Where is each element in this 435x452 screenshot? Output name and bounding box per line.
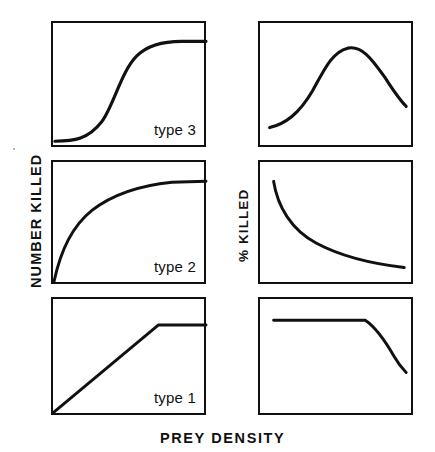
curve-percent-killed-plateau-drop: [258, 297, 413, 415]
functional-response-figure: NUMBER KILLED % KILLED PREY DENSITY type…: [0, 0, 435, 452]
panel-type-1-percent-killed: [258, 297, 413, 415]
curve-percent-killed-decay: [258, 160, 413, 284]
scan-speck: [13, 148, 15, 150]
panel-type-3-percent-killed: [258, 21, 413, 147]
panel-type-3-number-killed: type 3: [51, 21, 206, 147]
panel-label-type-3: type 3: [154, 121, 196, 138]
y-axis-label-number-killed: NUMBER KILLED: [28, 154, 44, 288]
panel-label-type-1: type 1: [154, 389, 196, 406]
x-axis-label-prey-density: PREY DENSITY: [160, 430, 285, 446]
panel-type-2-percent-killed: [258, 160, 413, 284]
y-axis-label-percent-killed: % KILLED: [236, 189, 251, 262]
curve-percent-killed-dome: [258, 21, 413, 147]
panel-type-2-number-killed: type 2: [51, 160, 206, 284]
panel-label-type-2: type 2: [154, 258, 196, 275]
panel-type-1-number-killed: type 1: [51, 297, 206, 415]
